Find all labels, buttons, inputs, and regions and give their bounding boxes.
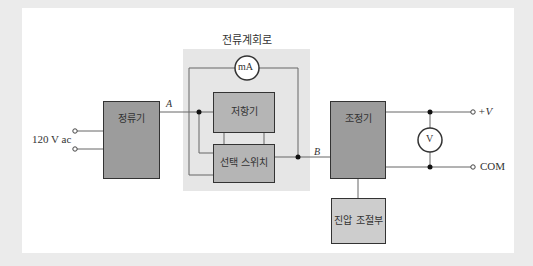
output-positive-label: +V: [478, 105, 492, 117]
regulator-label: 조정기: [345, 113, 372, 124]
selector-switch-block: 선택 스위치: [213, 144, 275, 183]
node-b-label: B: [314, 146, 320, 157]
node-a-label: A: [166, 98, 172, 109]
junction-dot: [428, 110, 433, 115]
input-terminal-icon: [73, 147, 77, 151]
resistor-label: 저항기: [231, 106, 258, 117]
junction-dot: [296, 155, 301, 160]
selector-switch-label: 선택 스위치: [220, 157, 268, 168]
rectifier-block: 정류기: [103, 101, 160, 179]
junction-dot: [428, 165, 433, 170]
junction-dot: [197, 110, 202, 115]
input-terminal-icon: [73, 129, 77, 133]
output-common-label: COM: [480, 160, 505, 172]
voltmeter-label: V: [426, 133, 433, 144]
ammeter-label: mA: [238, 61, 253, 72]
output-terminal-icon: [471, 165, 475, 169]
input-voltage-label: 120 V ac: [32, 133, 71, 145]
voltage-adjust-label: 진압 조절부: [334, 215, 382, 226]
resistor-block: 저항기: [213, 92, 275, 133]
rectifier-label: 정류기: [118, 113, 145, 124]
circuit-title: 전류계회로: [222, 31, 272, 47]
voltage-adjust-block: 진압 조절부: [331, 198, 386, 244]
output-terminal-icon: [471, 110, 475, 114]
regulator-block: 조정기: [330, 101, 386, 179]
